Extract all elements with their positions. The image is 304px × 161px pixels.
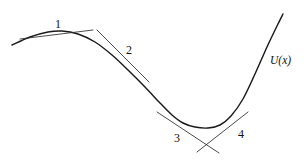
potential-curve <box>12 14 283 128</box>
point-label-3: 3 <box>174 132 180 144</box>
point-label-2: 2 <box>126 44 132 56</box>
tangent-line-point-2 <box>97 30 149 82</box>
point-label-1: 1 <box>55 18 61 30</box>
figure-canvas: 1 2 3 4 U(x) <box>0 0 304 161</box>
tangent-line-point-3 <box>157 112 219 153</box>
curve-plot-svg <box>0 0 304 161</box>
point-label-4: 4 <box>238 128 244 140</box>
function-label: U(x) <box>270 55 291 67</box>
